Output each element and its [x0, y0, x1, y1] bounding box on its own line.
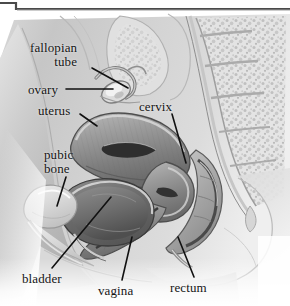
label-uterus: uterus	[38, 104, 70, 118]
anatomy-figure: fallopiantubeovaryuteruscervixpubicboneb…	[0, 0, 290, 306]
label-uterus-line1: uterus	[38, 104, 70, 118]
label-fallopian-tube-line2: tube	[30, 55, 77, 69]
label-ovary-line1: ovary	[28, 83, 58, 97]
label-rectum-line1: rectum	[170, 281, 207, 295]
label-vagina: vagina	[98, 284, 133, 298]
label-bladder: bladder	[22, 272, 62, 286]
label-ovary: ovary	[28, 83, 58, 97]
label-vagina-line1: vagina	[98, 284, 133, 298]
label-cervix: cervix	[139, 100, 172, 114]
label-bladder-line1: bladder	[22, 272, 62, 286]
label-pubic-bone: pubicbone	[44, 148, 73, 176]
label-pubic-bone-line1: pubic	[44, 148, 73, 162]
label-fallopian-tube-line1: fallopian	[30, 41, 77, 55]
label-pubic-bone-line2: bone	[44, 162, 73, 176]
label-fallopian-tube: fallopiantube	[30, 41, 77, 69]
label-rectum: rectum	[170, 281, 207, 295]
label-cervix-line1: cervix	[139, 100, 172, 114]
